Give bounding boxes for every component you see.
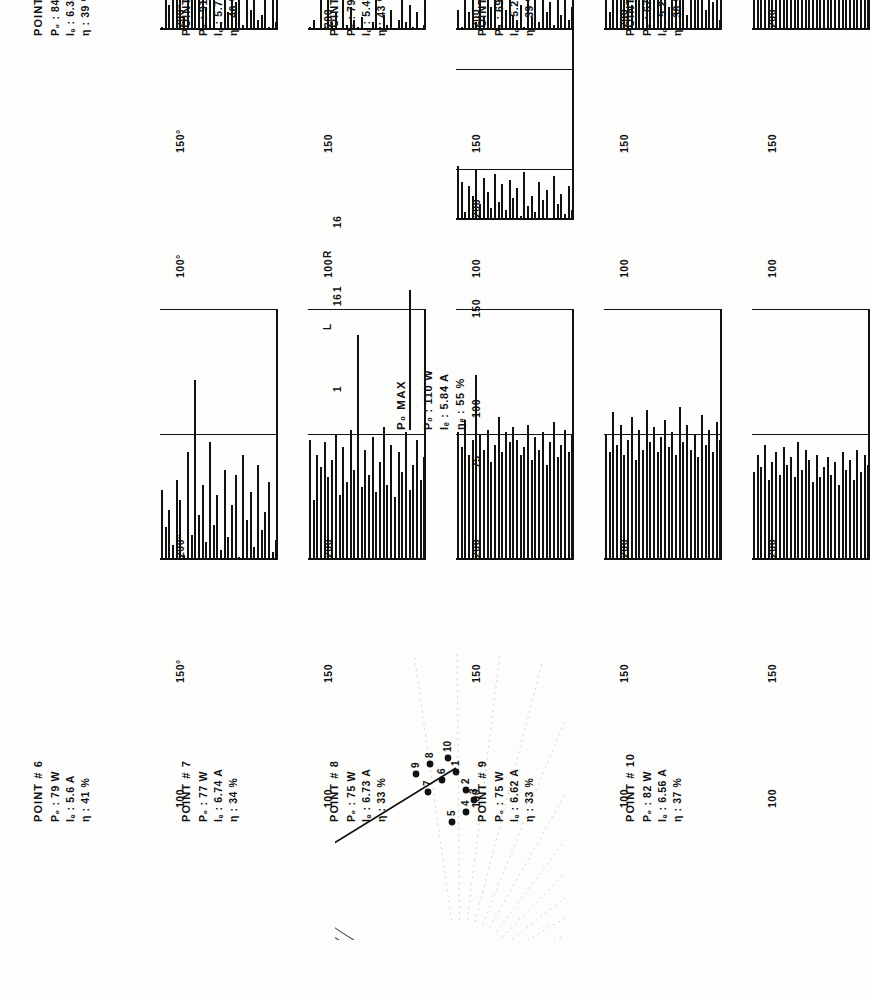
bar <box>568 186 570 220</box>
legend-separator: : <box>422 404 434 416</box>
bar <box>605 0 607 30</box>
gridline <box>456 69 574 70</box>
bar <box>390 445 392 560</box>
bar <box>464 212 466 220</box>
bar <box>686 15 688 30</box>
smith-point-label: 4 <box>460 800 471 806</box>
legend-rule <box>409 290 411 430</box>
bar <box>416 440 418 560</box>
bar <box>527 206 529 220</box>
bar <box>605 435 607 560</box>
bar <box>490 463 492 561</box>
bar <box>394 498 396 561</box>
bar <box>168 5 170 30</box>
bar <box>487 192 489 220</box>
group-marker-r-end: 16 <box>332 216 343 228</box>
panel-params: P₀ : 79 WIₑ : 5.6 Aη : 41 % <box>48 672 93 822</box>
bar <box>383 428 385 561</box>
bar <box>823 0 825 30</box>
bar <box>457 166 459 220</box>
smith-point-label: 3 <box>468 788 479 794</box>
smith-point-4 <box>463 809 470 816</box>
bar <box>401 0 403 30</box>
panel-caption: POINT # 7P₀ : 77 WIₑ : 6.74 Aη : 34 % <box>180 672 241 822</box>
param-separator: : <box>212 17 224 28</box>
panel-title: POINT # 2 <box>180 0 192 36</box>
legend-row: ηₑ : 55 % <box>452 290 468 430</box>
group-label-r: R <box>322 250 333 258</box>
smith-point-5 <box>449 819 456 826</box>
bar <box>398 453 400 561</box>
param-label: η <box>79 29 91 36</box>
legend-label: Iₑ <box>438 421 450 430</box>
bar <box>487 430 489 560</box>
bar <box>546 190 548 220</box>
bar <box>423 458 425 561</box>
bar <box>797 0 799 30</box>
bar <box>816 455 818 560</box>
param-separator: : <box>64 803 76 814</box>
param-value: 6.56 A <box>656 769 668 803</box>
bar <box>827 0 829 30</box>
bar <box>609 453 611 561</box>
param-separator: : <box>197 798 209 809</box>
bar <box>375 493 377 561</box>
axis-tick-label: 150 <box>766 664 778 683</box>
param-value: 77 W <box>197 771 209 798</box>
param-separator: : <box>656 803 668 814</box>
smith-point-label: 1 <box>450 760 461 766</box>
bar <box>268 28 270 31</box>
legend-row: Iₑ : 5.84 A <box>436 290 452 430</box>
bar <box>227 538 229 561</box>
group-marker-l-start: 1 <box>332 386 343 392</box>
bar <box>253 548 255 561</box>
bar <box>483 178 485 220</box>
bar <box>664 420 666 560</box>
bar <box>612 413 614 561</box>
bar <box>534 212 536 220</box>
param-row: P₀ : 77 W <box>196 672 211 822</box>
bar <box>549 443 551 561</box>
bar <box>849 0 851 30</box>
bar <box>801 0 803 30</box>
bar <box>753 0 755 30</box>
bar <box>394 29 396 30</box>
legend-value: 110 W <box>422 370 434 405</box>
smith-point-label: 9 <box>410 762 421 768</box>
smith-point-label: 5 <box>446 810 457 816</box>
bar <box>705 445 707 560</box>
param-value: 41 % <box>79 778 91 804</box>
param-row: η : 41 % <box>78 672 93 822</box>
bar <box>560 194 562 220</box>
bar <box>538 182 540 220</box>
bar <box>557 204 559 220</box>
bar <box>464 420 466 560</box>
smith-point-8 <box>427 761 434 768</box>
bar <box>198 515 200 560</box>
bar <box>816 0 818 30</box>
bar <box>353 470 355 560</box>
param-row: η : 46 % <box>226 0 241 36</box>
param-separator: : <box>64 17 76 28</box>
bar <box>538 450 540 560</box>
bar <box>483 450 485 560</box>
param-label: η <box>227 29 239 36</box>
bar <box>783 448 785 561</box>
bar <box>346 483 348 561</box>
bar <box>842 0 844 30</box>
param-value: 6.32 A <box>64 0 76 17</box>
panel-title: POINT # 10 <box>624 672 636 822</box>
bar <box>531 196 533 220</box>
axis-tick-label: 200° <box>174 534 186 558</box>
bar <box>564 214 566 220</box>
bar <box>553 423 555 561</box>
bar <box>856 0 858 30</box>
param-label: Iₑ <box>360 28 372 36</box>
param-separator: : <box>671 804 683 815</box>
bar <box>409 490 411 560</box>
param-separator: : <box>671 18 683 29</box>
param-row: Iₑ : 5.6 A <box>63 672 78 822</box>
bar <box>253 0 255 30</box>
bar <box>272 553 274 561</box>
bar <box>812 483 814 561</box>
